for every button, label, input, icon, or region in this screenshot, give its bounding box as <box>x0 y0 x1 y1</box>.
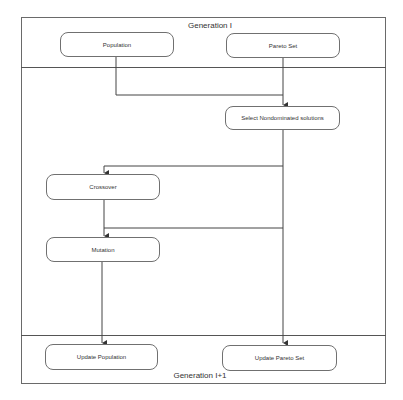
edges <box>0 0 403 400</box>
select-nondominated-node: Select Nondominated solutions <box>225 106 340 130</box>
crossover-node: Crossover <box>46 174 160 200</box>
pareto-set-node: Pareto Set <box>226 33 340 58</box>
update-pareto-set-node: Update Pareto Set <box>222 345 337 371</box>
population-node: Population <box>60 32 174 57</box>
mutation-node: Mutation <box>46 237 160 262</box>
update-population-node: Update Population <box>45 344 158 370</box>
